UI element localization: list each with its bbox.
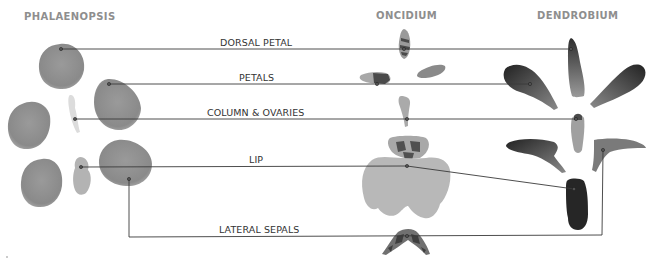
phal-petal-left bbox=[8, 102, 50, 149]
dot-onc-column bbox=[405, 117, 408, 120]
phal-sepal-right bbox=[99, 140, 152, 186]
dend-lip bbox=[566, 179, 588, 230]
onc-lateral-sepals bbox=[382, 229, 430, 255]
label-dorsal-petal: DORSAL PETAL bbox=[220, 37, 292, 48]
dend-sepal-right bbox=[592, 139, 646, 173]
dot-onc-sepal bbox=[405, 234, 408, 237]
dot-onc-lip bbox=[405, 164, 408, 167]
dot-dend-petal bbox=[528, 82, 531, 85]
phal-column bbox=[68, 95, 80, 133]
dot-dend-lip bbox=[572, 187, 575, 190]
dot-dend-column bbox=[574, 117, 577, 120]
dend-column bbox=[571, 115, 584, 153]
dot-phal-lip bbox=[79, 165, 82, 168]
dot-phal-column bbox=[73, 117, 76, 120]
dot-onc-petal bbox=[375, 82, 378, 85]
phalaenopsis-flower bbox=[8, 44, 152, 207]
phal-sepal-left bbox=[21, 159, 62, 207]
phal-petal-right bbox=[94, 79, 141, 130]
orchid-anatomy-diagram bbox=[0, 0, 653, 262]
label-lip: LIP bbox=[249, 154, 263, 165]
dot-onc-dorsal bbox=[402, 47, 405, 50]
label-column-ovaries: COLUMN & OVARIES bbox=[207, 107, 304, 118]
label-lateral-sepals: LATERAL SEPALS bbox=[219, 224, 299, 235]
oncidium-flower bbox=[360, 29, 451, 255]
stray-dot bbox=[6, 256, 8, 258]
dot-phal-petal bbox=[107, 82, 110, 85]
onc-petal-right bbox=[417, 65, 445, 78]
onc-column bbox=[399, 96, 411, 127]
leader-lip bbox=[81, 166, 574, 189]
phal-lip bbox=[73, 157, 91, 195]
dot-dend-dorsal bbox=[569, 47, 572, 50]
label-petals: PETALS bbox=[239, 72, 274, 83]
dend-dorsal-sepal bbox=[568, 38, 585, 97]
dot-phal-sepal bbox=[127, 177, 130, 180]
dendrobium-flower bbox=[504, 38, 646, 230]
dend-petal-left bbox=[504, 65, 558, 110]
dend-sepal-left bbox=[506, 139, 566, 173]
dend-petal-right bbox=[590, 65, 645, 108]
dot-dend-sepal bbox=[601, 148, 604, 151]
dot-phal-dorsal bbox=[59, 47, 62, 50]
